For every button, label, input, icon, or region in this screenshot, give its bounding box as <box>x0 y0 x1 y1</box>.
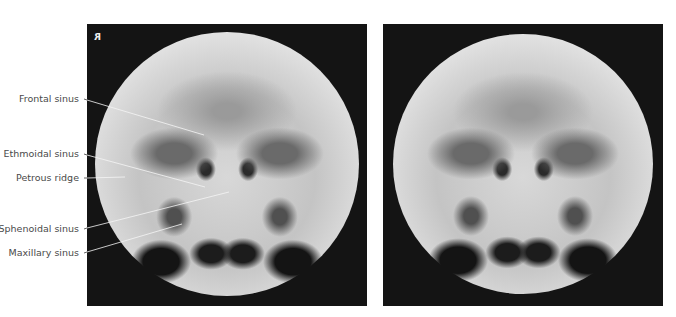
radiograph-panel-unlabeled <box>383 24 663 306</box>
xray-image-sinuses-labeled <box>95 32 359 296</box>
label-petrous-ridge: Petrous ridge <box>16 172 79 183</box>
label-frontal-sinus: Frontal sinus <box>19 93 79 104</box>
orientation-marker: R <box>94 32 101 42</box>
label-maxillary-sinus: Maxillary sinus <box>8 247 79 258</box>
label-sphenoidal-sinus: Sphenoidal sinus <box>0 223 79 234</box>
label-ethmoidal-sinus: Ethmoidal sinus <box>3 148 79 159</box>
radiograph-panel-labeled: R <box>87 24 367 306</box>
xray-image-sinuses-unlabeled <box>393 34 653 294</box>
